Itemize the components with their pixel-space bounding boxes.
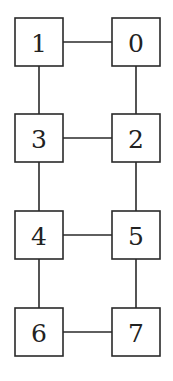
node-1: 1 <box>15 18 63 66</box>
node-0: 0 <box>112 18 160 66</box>
node-label: 7 <box>128 319 144 348</box>
node-3: 3 <box>15 114 63 162</box>
node-label: 5 <box>128 222 144 251</box>
node-label: 4 <box>31 222 47 251</box>
node-6: 6 <box>15 308 63 356</box>
node-label: 2 <box>128 125 144 154</box>
node-2: 2 <box>112 114 160 162</box>
node-label: 1 <box>31 29 47 58</box>
nodes: 10324567 <box>15 18 160 356</box>
node-label: 0 <box>128 29 144 58</box>
node-5: 5 <box>112 211 160 259</box>
node-label: 3 <box>31 125 47 154</box>
ladder-graph-diagram: 10324567 <box>0 0 173 381</box>
node-4: 4 <box>15 211 63 259</box>
node-label: 6 <box>31 319 47 348</box>
edges <box>39 42 136 332</box>
node-7: 7 <box>112 308 160 356</box>
